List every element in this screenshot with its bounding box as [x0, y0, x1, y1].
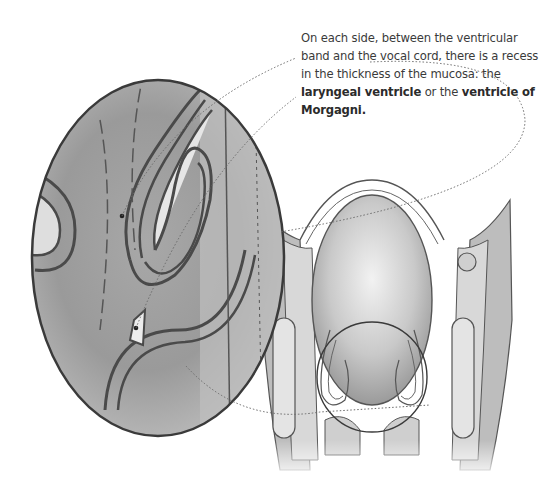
magnified-view — [30, 50, 290, 440]
larynx-illustration — [0, 0, 547, 495]
larynx-section — [262, 180, 522, 480]
